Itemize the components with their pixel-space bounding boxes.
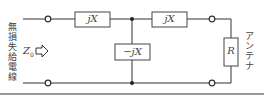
terminal-right-bottom xyxy=(209,80,215,86)
feedline-label: 無損失給電線 xyxy=(7,22,17,82)
junction-dot-top xyxy=(130,17,134,21)
shunt-label: −jX xyxy=(115,46,150,57)
series-left-label: jX xyxy=(75,13,110,24)
terminal-left-bottom xyxy=(45,80,51,86)
impedance-label: Z0 xyxy=(23,45,34,58)
circuit-diagram: 無損失給電線 Z0 jX jX −jX R アンテナ xyxy=(0,0,264,97)
junction-dot-bottom xyxy=(130,81,134,85)
load-label: R xyxy=(224,45,238,56)
impedance-subscript: 0 xyxy=(30,51,34,58)
impedance-symbol: Z xyxy=(23,45,30,56)
series-right-label: jX xyxy=(152,13,187,24)
antenna-label: アンテナ xyxy=(244,31,254,71)
arrow-icon xyxy=(36,45,48,57)
terminal-left-top xyxy=(45,16,51,22)
terminal-right-top xyxy=(209,16,215,22)
